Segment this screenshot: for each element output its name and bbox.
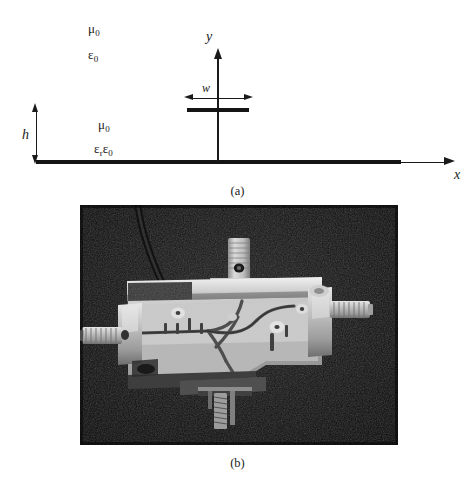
caption-b: (b) bbox=[0, 456, 475, 471]
air-permittivity-label: ε0 bbox=[88, 48, 98, 64]
panel-a-diagram: μ0 ε0 μ0 εrε0 h x y w (a) bbox=[0, 0, 475, 200]
strip-conductor bbox=[187, 108, 249, 112]
substrate-permeability-label: μ0 bbox=[98, 118, 110, 134]
height-dimension-line bbox=[36, 110, 37, 158]
epsilon-zero-subscript: 0 bbox=[108, 148, 113, 158]
epsilon-subscript: 0 bbox=[94, 54, 99, 64]
figure-container: μ0 ε0 μ0 εrε0 h x y w (a) bbox=[0, 0, 475, 480]
y-axis-arrowhead bbox=[214, 48, 222, 59]
height-label: h bbox=[22, 128, 29, 142]
y-axis-label: y bbox=[206, 30, 212, 44]
x-axis-label: x bbox=[454, 168, 460, 182]
circuit-photograph bbox=[80, 205, 398, 445]
caption-a: (a) bbox=[0, 184, 475, 199]
width-arrow-right bbox=[244, 94, 253, 100]
width-dimension-line bbox=[190, 98, 246, 99]
width-arrow-left bbox=[184, 94, 193, 100]
height-arrow-up bbox=[32, 103, 38, 112]
x-axis-line bbox=[399, 162, 446, 163]
x-axis-arrowhead bbox=[444, 157, 455, 165]
mu-subscript-substrate: 0 bbox=[105, 124, 110, 134]
substrate-permittivity-label: εrε0 bbox=[94, 142, 113, 158]
width-label: w bbox=[202, 82, 210, 94]
air-permeability-label: μ0 bbox=[88, 22, 100, 38]
panel-b-photograph: (b) bbox=[0, 200, 475, 480]
mu-subscript: 0 bbox=[95, 28, 100, 38]
